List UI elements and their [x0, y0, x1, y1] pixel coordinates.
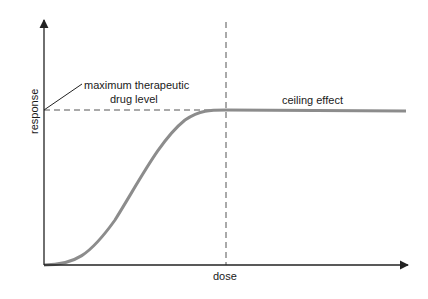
y-axis-label: response: [28, 89, 41, 134]
annotation-max-line2: drug level: [110, 93, 158, 106]
ceiling-effect-label: ceiling effect: [282, 94, 343, 107]
dose-response-curve: [44, 110, 406, 265]
dose-response-chart: [0, 0, 428, 299]
annotation-max-line1: maximum therapeutic: [84, 79, 189, 92]
x-axis-label: dose: [213, 270, 237, 283]
annotation-pointer-line: [44, 84, 82, 110]
